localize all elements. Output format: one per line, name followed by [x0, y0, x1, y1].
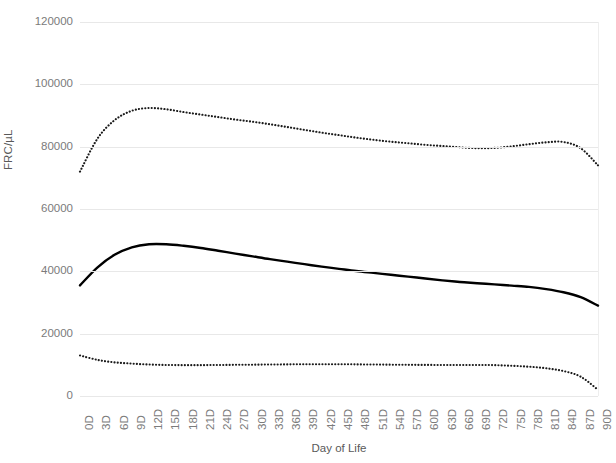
x-axis-tick-label: 72D [498, 409, 510, 430]
gridline [80, 271, 598, 272]
x-axis-tick-label: 36D [291, 409, 303, 430]
gridline [80, 147, 598, 148]
x-axis-tick-label: 21D [205, 409, 217, 430]
series-line-median [80, 244, 598, 306]
x-axis-tick-label: 51D [378, 409, 390, 430]
y-axis-tick-label: 120000 [0, 16, 80, 28]
x-axis-tick-label: 3D [101, 415, 113, 430]
chart-container: FRC/µL 120000100000800006000040000200000… [0, 0, 616, 463]
y-axis-tick-label: 60000 [0, 203, 80, 215]
x-axis-tick-label: 66D [464, 409, 476, 430]
x-axis-tick-label: 63D [447, 409, 459, 430]
y-axis-tick-label: 100000 [0, 79, 80, 91]
gridline [80, 209, 598, 210]
y-axis-tick-label: 0 [0, 390, 80, 402]
gridline [80, 22, 598, 23]
plot-area [80, 22, 599, 396]
x-axis-tick-label: 87D [585, 409, 597, 430]
x-axis-tick-label: 57D [412, 409, 424, 430]
x-axis-tick-label: 60D [429, 409, 441, 430]
x-axis-tick-label: 69D [481, 409, 493, 430]
x-axis-tick-label: 39D [308, 409, 320, 430]
x-axis-tick-label: 9D [136, 415, 148, 430]
y-axis-tick-label: 80000 [0, 141, 80, 153]
gridline [80, 396, 598, 397]
x-axis-tick-label: 90D [602, 409, 614, 430]
x-axis-tick-label: 33D [274, 409, 286, 430]
x-axis-tick-label: 42D [326, 409, 338, 430]
x-axis-tick-label: 0D [84, 415, 96, 430]
x-axis-tick-label: 24D [222, 409, 234, 430]
x-axis-tick-label: 81D [550, 409, 562, 430]
y-axis-tick-label: 20000 [0, 328, 80, 340]
y-axis-tick-labels: 120000100000800006000040000200000 [0, 0, 80, 463]
x-axis-tick-label: 6D [119, 415, 131, 430]
x-axis-tick-label: 30D [257, 409, 269, 430]
x-axis-tick-label: 48D [360, 409, 372, 430]
series-line-lower-percentile [80, 355, 598, 389]
x-axis-tick-label: 15D [170, 409, 182, 430]
x-axis-tick-label: 84D [567, 409, 579, 430]
x-axis-tick-label: 12D [153, 409, 165, 430]
x-axis-tick-label: 78D [533, 409, 545, 430]
gridline [80, 84, 598, 85]
x-axis-tick-label: 27D [239, 409, 251, 430]
y-axis-tick-label: 40000 [0, 266, 80, 278]
series-line-upper-percentile [80, 108, 598, 172]
gridline [80, 334, 598, 335]
x-axis-tick-label: 45D [343, 409, 355, 430]
x-axis-tick-label: 75D [516, 409, 528, 430]
x-axis-title: Day of Life [80, 442, 598, 454]
x-axis-tick-label: 18D [188, 409, 200, 430]
x-axis-tick-label: 54D [395, 409, 407, 430]
x-axis-tick-labels: 0D3D6D9D12D15D18D21D24D27D30D33D36D39D42… [80, 398, 598, 442]
